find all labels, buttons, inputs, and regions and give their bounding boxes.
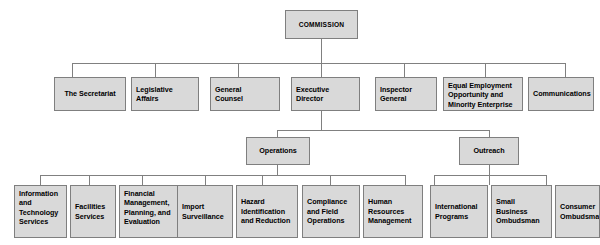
connector-operations-stem (277, 165, 278, 175)
node-operations[interactable]: Operations (246, 137, 310, 165)
connector-drop-financial-management (142, 175, 143, 185)
connector-drop-operations (277, 130, 278, 137)
node-hazard-identification-and-reduction[interactable]: Hazard Identification and Reduction (236, 185, 298, 238)
node-facilities-services[interactable]: Facilities Services (70, 185, 116, 238)
node-human-resources-management[interactable]: Human Resources Management (363, 185, 423, 238)
node-inspector-general[interactable]: Inspector General (375, 77, 437, 111)
node-executive-director[interactable]: Executive Director (291, 77, 360, 111)
connector-drop-secretariat (72, 63, 73, 77)
node-international-programs[interactable]: International Programs (430, 185, 488, 238)
node-equal-employment-opportunity[interactable]: Equal Employment Opportunity and Minorit… (443, 77, 523, 111)
connector-drop-inspector-general (404, 63, 405, 77)
connector-drop-human-resources (405, 175, 406, 185)
node-financial-management-planning-evaluation[interactable]: Financial Management, Planning, and Eval… (119, 185, 184, 238)
connector-drop-compliance-field-operations (330, 175, 331, 185)
connector-operations-bus (40, 175, 405, 176)
connector-drop-outreach (489, 130, 490, 137)
node-small-business-ombudsman[interactable]: Small Business Ombudsman (491, 185, 552, 238)
connector-drop-import-surveillance (205, 175, 206, 185)
connector-drop-hazard-identification (262, 175, 263, 185)
node-outreach[interactable]: Outreach (459, 137, 519, 165)
connector-outreach-stem (489, 165, 490, 175)
node-import-surveillance[interactable]: Import Surveillance (177, 185, 233, 238)
connector-level2-bus (277, 130, 489, 131)
org-chart: COMMISSION The Secretariat Legislative A… (0, 0, 600, 245)
node-communications[interactable]: Communications (528, 77, 594, 111)
connector-outreach-bus (434, 175, 546, 176)
node-information-and-technology-services[interactable]: Information and Technology Services (14, 185, 67, 238)
connector-drop-information-technology (40, 175, 41, 185)
connector-drop-legislative-affairs (155, 63, 156, 77)
node-consumer-ombudsman[interactable]: Consumer Ombudsman (555, 185, 600, 238)
connector-root-stem (321, 39, 322, 63)
connector-drop-small-business-ombudsman (489, 175, 490, 185)
node-commission[interactable]: COMMISSION (285, 10, 358, 39)
node-legislative-affairs[interactable]: Legislative Affairs (131, 77, 199, 111)
connector-drop-facilities-services (89, 175, 90, 185)
connector-drop-international-programs (434, 175, 435, 185)
node-the-secretariat[interactable]: The Secretariat (54, 77, 126, 111)
node-general-counsel[interactable]: General Counsel (210, 77, 280, 111)
node-compliance-and-field-operations[interactable]: Compliance and Field Operations (302, 185, 360, 238)
connector-drop-executive-director (321, 63, 322, 77)
connector-level1-bus (72, 63, 566, 64)
connector-drop-general-counsel (238, 63, 239, 77)
connector-drop-consumer-ombudsman (546, 175, 547, 185)
connector-execdir-stem (321, 111, 322, 130)
connector-drop-communications (565, 63, 566, 77)
connector-drop-equal-employment (485, 63, 486, 77)
